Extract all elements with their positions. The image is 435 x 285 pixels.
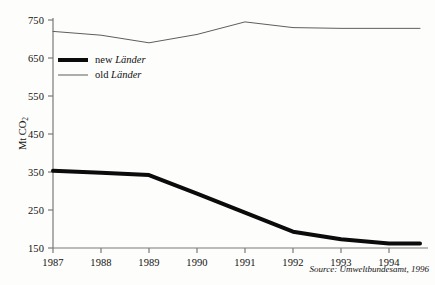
y-axis-ticks xyxy=(48,20,53,248)
legend-item-old-laender: old Länder xyxy=(58,67,145,82)
emissions-line-chart: Mt CO2 150250350450550650750 19871988198… xyxy=(0,0,435,285)
source-note: Source: Umweltbundesamt, 1996 xyxy=(310,264,429,274)
legend-label-old-emphasis: Länder xyxy=(111,69,141,80)
y-tick-label: 650 xyxy=(8,53,44,64)
y-tick-label: 750 xyxy=(8,15,44,26)
y-tick-label: 150 xyxy=(8,243,44,254)
y-tick-label: 450 xyxy=(8,129,44,140)
y-tick-label: 550 xyxy=(8,91,44,102)
x-tick-label: 1988 xyxy=(90,257,111,268)
x-tick-label: 1987 xyxy=(42,257,63,268)
series-line-new-laender xyxy=(53,171,420,244)
y-tick-label: 250 xyxy=(8,205,44,216)
legend-label-old-laender: old Länder xyxy=(95,69,141,80)
chart-legend: new Länder old Länder xyxy=(58,52,145,82)
series-line-old-laender xyxy=(53,22,420,43)
legend-label-new-laender: new Länder xyxy=(95,54,145,65)
chart-plot-area xyxy=(0,0,435,285)
legend-swatch-old-laender xyxy=(58,70,88,80)
legend-label-new-emphasis: Länder xyxy=(115,54,145,65)
x-tick-label: 1990 xyxy=(186,257,207,268)
x-tick-label: 1992 xyxy=(282,257,303,268)
legend-swatch-new-laender xyxy=(58,55,88,65)
legend-item-new-laender: new Länder xyxy=(58,52,145,67)
x-tick-label: 1989 xyxy=(138,257,159,268)
y-tick-label: 350 xyxy=(8,167,44,178)
x-tick-label: 1991 xyxy=(234,257,255,268)
legend-label-new-prefix: new xyxy=(95,54,115,65)
x-axis-ticks xyxy=(53,248,389,253)
y-axis-title-subscript: 2 xyxy=(21,117,30,121)
legend-label-old-prefix: old xyxy=(95,69,111,80)
